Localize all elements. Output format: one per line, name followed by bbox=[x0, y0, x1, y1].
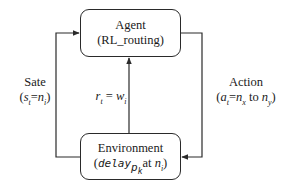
state-expression: (st=ni) bbox=[10, 90, 60, 105]
agent-subtitle: (RL_routing) bbox=[81, 33, 180, 48]
agent-node: Agent (RL_routing) bbox=[80, 9, 181, 57]
environment-node: Environment (delaypkat ni) bbox=[80, 133, 181, 180]
environment-subtitle: (delaypkat ni) bbox=[81, 156, 180, 172]
reward-edge-label: rt = wi bbox=[91, 89, 131, 104]
action-edge-label: Action (at=nx to ny) bbox=[204, 75, 288, 105]
action-expression: (at=nx to ny) bbox=[204, 90, 288, 105]
agent-title: Agent bbox=[81, 18, 180, 33]
state-title: Sate bbox=[10, 75, 60, 90]
action-title: Action bbox=[204, 75, 288, 90]
state-edge-label: Sate (st=ni) bbox=[10, 75, 60, 105]
action-arrow bbox=[181, 33, 202, 157]
environment-title: Environment bbox=[81, 141, 180, 156]
